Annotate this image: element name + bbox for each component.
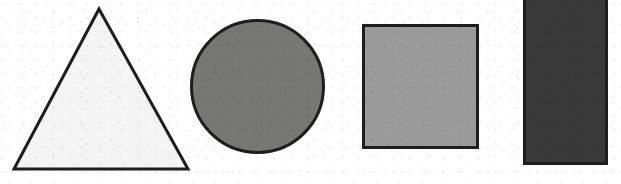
square-shape [364,26,478,148]
rectangle-shape [525,0,607,164]
shapes-canvas [0,0,621,184]
circle-shape [192,21,324,153]
shapes-figure [0,0,621,184]
